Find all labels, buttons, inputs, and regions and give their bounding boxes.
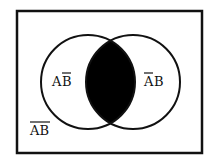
label-not-a-b: A B — [143, 73, 164, 89]
svg-text:A: A — [51, 74, 62, 89]
label-a-not-b: A B — [51, 73, 72, 89]
venn-diagram: A B A B AB — [0, 0, 213, 163]
svg-text:AB: AB — [29, 123, 49, 138]
svg-text:B: B — [154, 74, 164, 89]
svg-text:A: A — [143, 74, 154, 89]
label-not-a-not-b: AB — [29, 122, 50, 138]
svg-text:B: B — [62, 74, 72, 89]
